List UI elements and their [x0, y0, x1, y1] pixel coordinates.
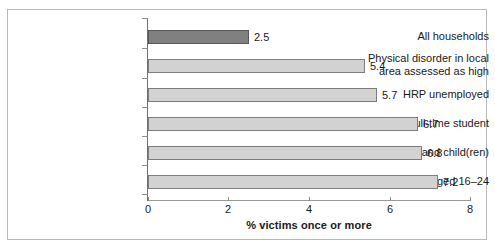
x-axis-title: % victims once or more: [148, 219, 470, 231]
bar-chart: All households Physical disorder in loca…: [0, 0, 495, 250]
y-axis-tick-0: [142, 18, 148, 19]
bar-hrp-full-time-student: [148, 117, 418, 131]
y-axis-tick-4: [142, 136, 148, 137]
y-axis-tick-5: [142, 165, 148, 166]
x-axis-tick-1: [228, 197, 229, 201]
bar-single-adult-and-children: [148, 146, 422, 160]
x-axis-tick-4: [470, 197, 471, 201]
x-axis-tick-2: [309, 197, 310, 201]
y-axis-tick-1: [142, 48, 148, 49]
bar-value-4: 6.8: [427, 146, 442, 160]
x-axis-tick-label-1: 2: [216, 203, 240, 216]
bar-value-3: 6.7: [423, 117, 438, 131]
x-axis-tick-label-3: 6: [378, 203, 402, 216]
bar-value-5: 7.2: [443, 175, 458, 189]
bar-hrp-aged-16-24: [148, 175, 438, 189]
category-label-2: HRP unemployed: [359, 88, 495, 101]
bar-value-1: 5.4: [370, 59, 385, 73]
y-axis-line: [147, 18, 148, 201]
y-axis-tick-6: [142, 194, 148, 195]
bar-value-0: 2.5: [254, 30, 269, 44]
bar-all-households: [148, 30, 249, 44]
x-axis-tick-label-4: 8: [458, 203, 482, 216]
bar-hrp-unemployed: [148, 88, 377, 102]
x-axis-tick-label-2: 4: [297, 203, 321, 216]
x-axis-tick-3: [390, 197, 391, 201]
x-axis-tick-0: [148, 197, 149, 201]
bar-physical-disorder: [148, 59, 365, 73]
category-label-0: All households: [359, 30, 495, 43]
y-axis-tick-3: [142, 107, 148, 108]
x-axis-tick-label-0: 0: [136, 203, 160, 216]
y-axis-tick-2: [142, 78, 148, 79]
bar-value-2: 5.7: [382, 88, 397, 102]
